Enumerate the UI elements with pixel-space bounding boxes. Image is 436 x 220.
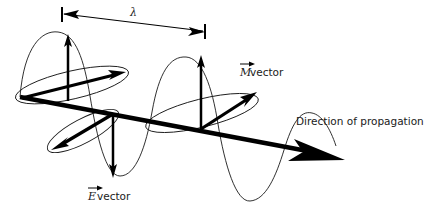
m-vector-arrow-upright-2 [201, 100, 246, 129]
wavelength-symbol-label: λ [129, 6, 137, 19]
em-wave-figure: λ M vector E vector Direction of propaga… [0, 0, 436, 220]
e-vector-word-label: vector [97, 190, 131, 202]
propagation-label: Direction of propagation [296, 115, 424, 127]
m-vector-arrow-downleft-1 [64, 114, 113, 143]
wavelength-right-arrowhead [188, 27, 205, 36]
em-wave-diagram: λ M vector E vector Direction of propaga… [0, 0, 436, 220]
e-vector-symbol-label: E [87, 190, 96, 203]
wavelength-left-arrowhead [63, 10, 79, 19]
m-vector-word-label: vector [250, 66, 284, 78]
m-vector-arrowhead-downleft-1 [51, 137, 69, 150]
